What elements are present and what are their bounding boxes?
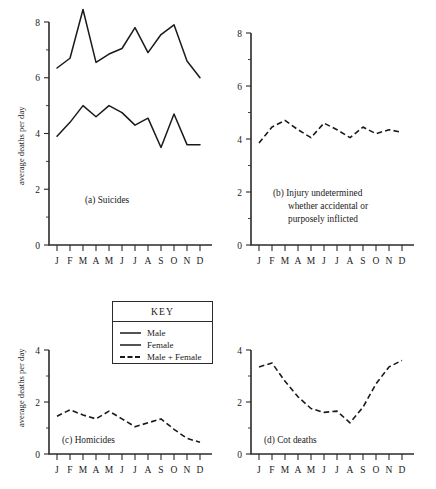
legend-key-box: KEY Male Female Male + Female — [112, 301, 213, 364]
panel-d-caption: (d) Cot deaths — [264, 435, 317, 446]
y-tick-label: 8 — [237, 29, 242, 39]
panel-a-caption: (a) Suicides — [85, 195, 130, 206]
month-label: N — [385, 465, 392, 475]
month-label: J — [257, 465, 261, 475]
month-label: M — [307, 465, 316, 475]
month-label: O — [170, 256, 177, 266]
month-label: J — [120, 256, 124, 266]
month-label: F — [269, 465, 274, 475]
y-tick-label: 4 — [237, 135, 242, 145]
y-tick-label: 2 — [35, 398, 40, 408]
series-cot-deaths — [259, 360, 402, 422]
panel-b-chart: 0 2 4 6 8 J F M A M J J A S O N D — [218, 0, 436, 280]
month-label: J — [133, 465, 137, 475]
month-label: D — [398, 256, 405, 266]
month-label: M — [281, 256, 290, 266]
month-label: D — [398, 465, 405, 475]
panel-b-y-tick-labels: 0 2 4 6 8 — [237, 29, 242, 251]
month-label: J — [335, 465, 339, 475]
panel-b-x-tick-labels: J F M A M J J A S O N D — [257, 256, 405, 266]
panel-b-injury-undetermined: 0 2 4 6 8 J F M A M J J A S O N D — [218, 0, 436, 280]
y-tick-label: 0 — [35, 241, 40, 251]
y-tick-label: 0 — [35, 450, 40, 460]
panel-a-x-tick-labels: J F M A M J J A S O N D — [55, 256, 203, 266]
month-label: A — [346, 256, 353, 266]
legend-row-female: Female — [119, 339, 212, 351]
y-tick-label: 4 — [237, 346, 242, 356]
panel-c-y-tick-labels: 0 2 4 — [35, 346, 40, 460]
month-label: S — [360, 256, 365, 266]
panel-b-caption: (b) Injury undetermined whether accident… — [273, 188, 369, 224]
panel-c-x-tick-labels: J F M A M J J A S O N D — [55, 465, 203, 475]
month-label: M — [281, 465, 290, 475]
panel-b-x-ticks — [259, 245, 402, 251]
series-female-suicides — [57, 106, 200, 148]
month-label: J — [120, 465, 124, 475]
y-tick-label: 2 — [35, 185, 40, 195]
month-label: M — [307, 256, 316, 266]
seasonal-mortality-figure: 0 2 4 6 8 J F M A M J J A S O N D averag… — [0, 0, 436, 489]
panel-b-caption-line1: (b) Injury undetermined — [273, 188, 363, 199]
panel-a-suicides: 0 2 4 6 8 J F M A M J J A S O N D averag… — [0, 0, 218, 280]
month-label: J — [322, 256, 326, 266]
legend-row-male: Male — [119, 327, 212, 339]
month-label: O — [372, 465, 379, 475]
panel-d-y-tick-labels: 0 2 4 — [237, 346, 242, 460]
month-label: N — [183, 465, 190, 475]
month-label: J — [55, 256, 59, 266]
y-tick-label: 4 — [35, 346, 40, 356]
month-label: J — [55, 465, 59, 475]
series-injury-undetermined — [259, 120, 402, 143]
month-label: M — [105, 256, 114, 266]
month-label: S — [360, 465, 365, 475]
month-label: D — [196, 256, 203, 266]
month-label: J — [335, 256, 339, 266]
month-label: A — [294, 256, 301, 266]
legend-items: Male Female Male + Female — [113, 322, 212, 363]
month-label: F — [269, 256, 274, 266]
panel-d-x-ticks — [259, 454, 402, 460]
month-label: J — [133, 256, 137, 266]
y-tick-label: 8 — [35, 18, 40, 28]
panel-b-caption-line2: whether accidental or — [288, 201, 369, 211]
month-label: S — [158, 256, 163, 266]
panel-d-x-tick-labels: J F M A M J J A S O N D — [257, 465, 405, 475]
panel-a-chart: 0 2 4 6 8 J F M A M J J A S O N D averag… — [0, 0, 218, 280]
month-label: O — [372, 256, 379, 266]
y-axis-title: average deaths per day — [16, 348, 26, 427]
month-label: M — [105, 465, 114, 475]
panel-c-caption: (c) Homicides — [62, 435, 115, 446]
y-tick-label: 2 — [237, 188, 242, 198]
y-tick-label: 0 — [237, 241, 242, 251]
month-label: A — [346, 465, 353, 475]
solid-line-icon — [119, 328, 142, 338]
y-tick-label: 6 — [35, 73, 40, 83]
panel-a-axes — [44, 22, 212, 251]
series-male-suicides — [57, 9, 200, 77]
month-label: M — [79, 256, 88, 266]
panel-a-x-ticks — [57, 245, 200, 251]
legend-label-male: Male — [147, 328, 166, 338]
month-label: D — [196, 465, 203, 475]
month-label: A — [92, 256, 99, 266]
legend-label-female: Female — [147, 340, 174, 350]
y-axis-title: average deaths per day — [16, 106, 26, 185]
month-label: N — [183, 256, 190, 266]
y-tick-label: 2 — [237, 398, 242, 408]
legend-title: KEY — [113, 302, 212, 322]
month-label: F — [67, 465, 72, 475]
month-label: A — [294, 465, 301, 475]
month-label: J — [322, 465, 326, 475]
legend-label-male-plus-female: Male + Female — [147, 352, 202, 362]
month-label: N — [385, 256, 392, 266]
month-label: F — [67, 256, 72, 266]
panel-d-chart: 0 2 4 J F M A M J J A S O N D (d) Cot de… — [218, 280, 436, 489]
dashed-line-icon — [119, 352, 142, 362]
month-label: M — [79, 465, 88, 475]
month-label: J — [257, 256, 261, 266]
month-label: A — [92, 465, 99, 475]
y-tick-label: 0 — [237, 450, 242, 460]
month-label: A — [144, 256, 151, 266]
panel-a-y-tick-labels: 0 2 4 6 8 — [35, 18, 40, 251]
panel-d-cot-deaths: 0 2 4 J F M A M J J A S O N D (d) Cot de… — [218, 280, 436, 489]
